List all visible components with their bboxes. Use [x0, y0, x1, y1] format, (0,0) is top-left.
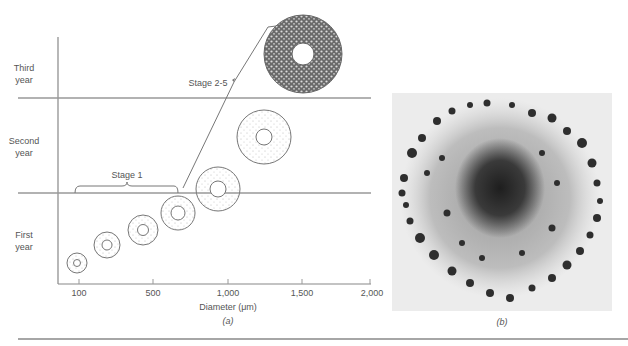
stage2-5-label: Stage 2-5 — [183, 78, 233, 89]
label-line: year — [4, 241, 44, 253]
label-line: First — [4, 229, 44, 241]
caption-b: (b) — [482, 317, 522, 328]
y-label-second-year: Second year — [0, 135, 48, 159]
oocyte-7-mature — [264, 15, 342, 93]
micrograph-image — [392, 93, 612, 311]
x-axis-label: Diameter (μm) — [178, 302, 278, 313]
oocyte-1 — [67, 253, 87, 273]
x-tick-1500: 1,500 — [282, 288, 322, 298]
label-line: year — [0, 147, 48, 159]
y-label-third-year: Third year — [4, 62, 44, 86]
x-tick-1000: 1,000 — [208, 288, 248, 298]
oocyte-4 — [161, 196, 195, 230]
y-label-first-year: First year — [4, 229, 44, 253]
x-tick-100: 100 — [59, 288, 99, 298]
oocyte-3 — [128, 215, 158, 245]
caption-a: (a) — [208, 316, 248, 327]
x-tick-500: 500 — [133, 288, 173, 298]
oocyte-micrograph — [392, 93, 612, 311]
stage1-bracket — [75, 182, 178, 193]
label-line: year — [4, 74, 44, 86]
oocyte-5 — [196, 167, 240, 211]
oocyte-6 — [237, 110, 291, 164]
label-line: Third — [4, 62, 44, 74]
label-line: Second — [0, 135, 48, 147]
oocyte-growth-figure: Third year Second year First year Stage … — [0, 0, 628, 346]
oocyte-2 — [94, 232, 120, 258]
stage1-label: Stage 1 — [102, 170, 152, 181]
x-tick-2000: 2,000 — [352, 288, 392, 298]
